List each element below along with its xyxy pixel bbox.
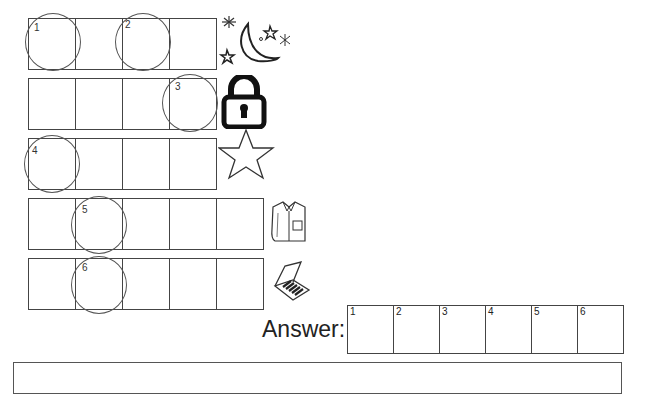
clue-number: 4 xyxy=(32,145,38,156)
clue-number: 5 xyxy=(82,204,88,215)
letter-box[interactable] xyxy=(75,78,123,130)
letter-box[interactable] xyxy=(169,138,217,190)
notes-box xyxy=(13,362,622,394)
clue-number: 3 xyxy=(175,81,181,92)
padlock-icon xyxy=(221,75,267,129)
letter-box[interactable] xyxy=(75,18,123,70)
letter-box[interactable] xyxy=(122,198,170,250)
moon-stars-icon xyxy=(218,14,298,66)
answer-slot[interactable]: 2 xyxy=(393,305,440,354)
slot-number: 5 xyxy=(534,306,540,317)
clue-number: 2 xyxy=(125,19,131,30)
letter-box[interactable] xyxy=(169,18,217,70)
letter-box[interactable] xyxy=(169,258,217,310)
slot-number: 1 xyxy=(350,306,356,317)
letter-box[interactable] xyxy=(122,258,170,310)
clue-number: 1 xyxy=(34,22,40,33)
letter-box[interactable] xyxy=(122,138,170,190)
letter-box[interactable] xyxy=(28,258,76,310)
letter-box[interactable] xyxy=(28,198,76,250)
letter-box[interactable] xyxy=(122,78,170,130)
answer-label: Answer: xyxy=(262,316,345,343)
letter-box[interactable] xyxy=(216,198,264,250)
slot-number: 3 xyxy=(442,306,448,317)
clue-number: 6 xyxy=(82,262,88,273)
answer-slot[interactable]: 4 xyxy=(485,305,532,354)
word-row-4 xyxy=(28,198,264,250)
answer-slot[interactable]: 1 xyxy=(347,305,394,354)
letter-box[interactable] xyxy=(28,78,76,130)
star-icon xyxy=(218,128,276,180)
answer-slot[interactable]: 6 xyxy=(577,305,624,354)
answer-slot[interactable]: 5 xyxy=(531,305,578,354)
word-row-3 xyxy=(28,138,217,190)
letter-box[interactable] xyxy=(75,138,123,190)
slot-number: 4 xyxy=(488,306,494,317)
letter-box[interactable] xyxy=(216,258,264,310)
word-row-2 xyxy=(28,78,217,130)
shirt-icon xyxy=(269,199,309,245)
letter-box[interactable] xyxy=(169,198,217,250)
slot-number: 2 xyxy=(396,306,402,317)
word-row-1 xyxy=(28,18,217,70)
answer-grid: 1 2 3 4 5 6 xyxy=(347,305,624,354)
matchbox-icon xyxy=(271,260,311,304)
answer-slot[interactable]: 3 xyxy=(439,305,486,354)
word-row-5 xyxy=(28,258,264,310)
slot-number: 6 xyxy=(580,306,586,317)
